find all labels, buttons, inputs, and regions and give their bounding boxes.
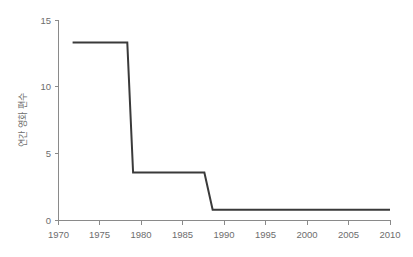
x-tick-label: 1995 xyxy=(255,229,276,240)
x-tick-label: 2005 xyxy=(338,229,359,240)
x-tick-1990: 1990 xyxy=(213,221,234,241)
x-tick-1995: 1995 xyxy=(255,221,276,241)
x-tick-label: 2010 xyxy=(379,229,400,240)
x-tick-1985: 1985 xyxy=(172,221,193,241)
y-tick-label: 10 xyxy=(40,81,51,92)
y-tick-label: 15 xyxy=(40,15,51,26)
y-tick-label: 5 xyxy=(46,148,51,159)
y-axis-title: 연간 영화 편수 xyxy=(17,93,28,146)
y-tick-15: 15 xyxy=(40,15,58,26)
y-tick-10: 10 xyxy=(40,81,58,92)
x-tick-label: 1970 xyxy=(48,229,69,240)
x-tick-label: 1975 xyxy=(89,229,110,240)
axes xyxy=(59,20,391,221)
x-tick-2000: 2000 xyxy=(296,221,317,241)
x-tick-2005: 2005 xyxy=(338,221,359,241)
x-tick-1980: 1980 xyxy=(130,221,151,241)
x-tick-1970: 1970 xyxy=(48,221,69,241)
y-axis-ticks: 0 5 10 15 xyxy=(40,15,58,226)
data-series-line xyxy=(73,43,390,210)
x-tick-2010: 2010 xyxy=(379,221,400,241)
x-axis-ticks: 1970 1975 1980 1985 1990 1995 xyxy=(48,221,401,241)
x-tick-label: 1990 xyxy=(213,229,234,240)
x-tick-label: 2000 xyxy=(296,229,317,240)
y-tick-5: 5 xyxy=(46,148,59,159)
x-tick-label: 1985 xyxy=(172,229,193,240)
x-tick-label: 1980 xyxy=(130,229,151,240)
line-chart: 연간 영화 편수 0 5 10 15 xyxy=(0,0,413,257)
x-tick-1975: 1975 xyxy=(89,221,110,241)
chart-figure: 연간 영화 편수 0 5 10 15 xyxy=(0,0,413,257)
y-tick-0: 0 xyxy=(46,215,59,226)
y-tick-label: 0 xyxy=(46,215,51,226)
